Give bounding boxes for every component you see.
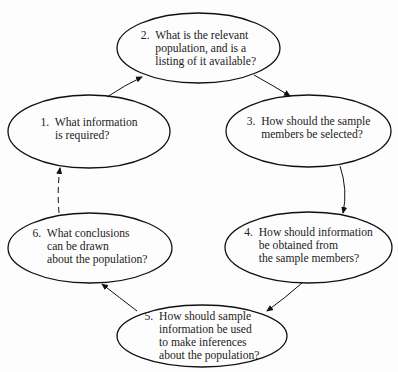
edge-3-to-4-arrow [340,166,345,213]
node-6: 6. What conclusions can be drawn about t… [8,213,172,283]
node-5: 5. How should sample information be used… [117,305,287,367]
node-2-label: 2. What is the relevant population, and … [141,29,256,68]
node-1-label: 1. What information is required? [40,116,137,142]
node-3-label: 3. How should the sample members be sele… [247,115,371,141]
node-4: 4. How should information be obtained fr… [225,212,392,283]
sampling-process-diagram: 2. What is the relevant population, and … [0,0,398,372]
node-6-label: 6. What conclusions can be drawn about t… [33,227,148,266]
node-2: 2. What is the relevant population, and … [117,13,280,83]
node-1: 1. What information is required? [8,95,170,168]
node-5-label: 5. How should sample information be used… [145,310,260,362]
node-4-label: 4. How should information be obtained fr… [244,226,373,265]
edge-6-to-1-dashed-arrow [58,168,60,213]
node-3: 3. How should the sample members be sele… [226,95,391,167]
